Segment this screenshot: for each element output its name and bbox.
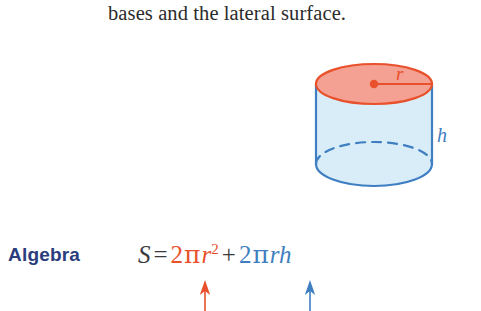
- cylinder-shape-icon: [300, 52, 481, 212]
- algebra-section-label: Algebra: [8, 243, 80, 267]
- height-label: h: [437, 126, 447, 145]
- center-point-dot: [370, 80, 378, 88]
- cylinder-diagram: r h: [300, 52, 481, 212]
- lateral-variable-r: r: [270, 241, 279, 268]
- lateral-coefficient: 2: [239, 241, 252, 268]
- bases-pi-symbol: π: [183, 240, 201, 269]
- formula-subject: S: [138, 241, 151, 268]
- formula-equals: =: [151, 241, 171, 268]
- lesson-figure-page: bases and the lateral surface. r h Algeb…: [0, 0, 481, 311]
- radius-label: r: [396, 64, 403, 83]
- formula-term-bases: 2πr2: [171, 241, 219, 268]
- formula-plus: +: [219, 241, 239, 268]
- lateral-pi-symbol: π: [251, 240, 269, 269]
- arrow-up-bases-icon: [197, 278, 213, 311]
- bases-exponent: 2: [211, 241, 219, 257]
- bases-variable: r: [202, 241, 212, 268]
- lateral-variable-h: h: [279, 241, 292, 268]
- formula-term-lateral: 2πrh: [239, 241, 292, 268]
- lesson-sentence: bases and the lateral surface.: [108, 0, 481, 26]
- bases-coefficient: 2: [171, 241, 184, 268]
- surface-area-formula: S=2πr2+2πrh: [138, 238, 292, 272]
- arrow-up-lateral-icon: [302, 278, 318, 311]
